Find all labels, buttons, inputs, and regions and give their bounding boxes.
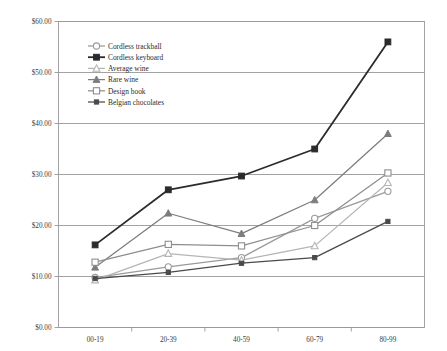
data-point xyxy=(93,276,97,280)
legend-label: Cordless trackball xyxy=(108,42,162,51)
legend-marker xyxy=(93,43,99,49)
data-point xyxy=(312,146,318,152)
data-point xyxy=(312,215,318,221)
data-point xyxy=(239,261,243,265)
data-point xyxy=(92,259,98,265)
legend-item-3[interactable]: Average wine xyxy=(88,64,149,73)
y-axis-label: $30.00 xyxy=(32,171,52,179)
x-axis-label: 20-39 xyxy=(160,336,177,344)
legend-item-6[interactable]: Belgian chocolates xyxy=(88,98,164,107)
legend-item-1[interactable]: Cordless trackball xyxy=(88,42,162,51)
data-point xyxy=(386,219,390,223)
legend-marker xyxy=(93,88,99,94)
x-axis-label: 80-99 xyxy=(380,336,397,344)
gridlines: $0.00$10.00$20.00$30.00$40.00$50.00$60.0… xyxy=(32,18,425,332)
data-point xyxy=(165,187,171,193)
legend-label: Rare wine xyxy=(108,75,139,84)
data-point xyxy=(385,179,392,185)
data-point xyxy=(385,39,391,45)
data-point xyxy=(92,242,98,248)
data-point xyxy=(385,170,391,176)
legend-item-2[interactable]: Cordless keyboard xyxy=(88,53,164,62)
legend-label: Average wine xyxy=(108,64,149,73)
y-axis-label: $0.00 xyxy=(35,324,52,332)
y-axis-label: $60.00 xyxy=(32,18,52,26)
data-point xyxy=(239,173,245,179)
x-axis: 00-1920-3940-5960-7980-99 xyxy=(87,328,397,344)
x-axis-label: 40-59 xyxy=(233,336,250,344)
data-point xyxy=(165,241,171,247)
data-point xyxy=(313,256,317,260)
x-axis-label: 60-79 xyxy=(306,336,323,344)
y-axis-label: $40.00 xyxy=(32,120,52,128)
legend-item-4[interactable]: Rare wine xyxy=(88,75,139,84)
data-point xyxy=(312,222,318,228)
series-5 xyxy=(92,170,391,265)
data-point xyxy=(165,264,171,270)
data-point xyxy=(166,270,170,274)
x-axis-label: 00-19 xyxy=(87,336,104,344)
legend-label: Belgian chocolates xyxy=(108,98,164,107)
data-point xyxy=(385,130,392,136)
y-axis-label: $50.00 xyxy=(32,69,52,77)
data-point xyxy=(165,210,172,216)
data-point xyxy=(238,243,244,249)
legend-label: Cordless keyboard xyxy=(108,53,164,62)
legend: Cordless trackballCordless keyboardAvera… xyxy=(88,42,164,107)
legend-marker xyxy=(94,54,100,60)
data-point xyxy=(385,188,391,194)
legend-marker xyxy=(94,100,98,104)
y-axis-label: $10.00 xyxy=(32,273,52,281)
line-chart: $0.00$10.00$20.00$30.00$40.00$50.00$60.0… xyxy=(0,0,447,351)
legend-item-5[interactable]: Design book xyxy=(88,87,146,96)
legend-label: Design book xyxy=(108,87,146,96)
chart-canvas: $0.00$10.00$20.00$30.00$40.00$50.00$60.0… xyxy=(0,0,447,351)
y-axis-label: $20.00 xyxy=(32,222,52,230)
